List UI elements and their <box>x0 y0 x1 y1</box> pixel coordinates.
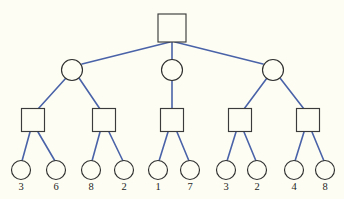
edge-n3-3-to-leaf-6 <box>177 132 189 161</box>
tree-svg: 3 6 8 2 1 7 3 2 4 8 <box>0 0 344 199</box>
edge-n3-2-to-leaf-4 <box>109 132 123 161</box>
leaf-label-6: 7 <box>187 181 192 192</box>
node-leaf-5[interactable] <box>149 161 168 180</box>
edge-n3-1-to-leaf-1 <box>22 132 30 161</box>
level-4-leaf-nodes <box>12 161 335 180</box>
leaf-label-10: 8 <box>322 181 327 192</box>
leaf-label-7: 3 <box>223 181 228 192</box>
edge-n3-5-to-leaf-10 <box>312 132 324 161</box>
edge-n2-3-to-n3-4 <box>244 78 267 109</box>
node-leaf-6[interactable] <box>181 161 200 180</box>
leaf-label-5: 1 <box>155 181 160 192</box>
node-n3-2[interactable] <box>93 109 116 132</box>
edges-level3-to-level4 <box>22 132 324 161</box>
edge-n2-3-to-n3-5 <box>280 78 304 109</box>
edge-n3-1-to-leaf-2 <box>38 132 55 161</box>
edge-n2-1-to-n3-1 <box>38 78 66 109</box>
leaf-label-3: 8 <box>88 181 93 192</box>
level-3-nodes <box>22 109 320 132</box>
edge-root-to-n2-1 <box>82 42 170 64</box>
leaf-label-9: 4 <box>291 181 297 192</box>
edge-n3-5-to-leaf-9 <box>295 132 304 161</box>
leaf-label-2: 6 <box>53 181 58 192</box>
node-leaf-8[interactable] <box>248 161 267 180</box>
node-leaf-7[interactable] <box>217 161 236 180</box>
node-leaf-2[interactable] <box>47 161 66 180</box>
node-n3-1[interactable] <box>22 109 45 132</box>
leaf-label-1: 3 <box>18 181 23 192</box>
leaf-label-8: 2 <box>254 181 259 192</box>
node-leaf-3[interactable] <box>82 161 101 180</box>
leaf-label-4: 2 <box>121 181 126 192</box>
level-1-nodes <box>158 14 186 42</box>
node-n3-4[interactable] <box>229 109 252 132</box>
node-leaf-1[interactable] <box>12 161 31 180</box>
tree-diagram: 3 6 8 2 1 7 3 2 4 8 <box>0 0 344 199</box>
node-leaf-10[interactable] <box>316 161 335 180</box>
edge-n3-2-to-leaf-3 <box>92 132 100 161</box>
node-leaf-9[interactable] <box>285 161 304 180</box>
edge-n3-4-to-leaf-7 <box>227 132 236 161</box>
level-2-nodes <box>62 60 284 81</box>
node-leaf-4[interactable] <box>115 161 134 180</box>
node-n2-3[interactable] <box>263 60 284 81</box>
node-n2-2[interactable] <box>162 60 183 81</box>
edge-root-to-n2-3 <box>175 42 263 64</box>
node-n3-3[interactable] <box>161 109 184 132</box>
node-n3-5[interactable] <box>297 109 320 132</box>
node-n2-1[interactable] <box>62 60 83 81</box>
node-root[interactable] <box>158 14 186 42</box>
edges-level2-to-level3 <box>38 78 304 109</box>
edge-n3-3-to-leaf-5 <box>159 132 168 161</box>
edge-n3-4-to-leaf-8 <box>244 132 256 161</box>
edge-n2-1-to-n3-2 <box>79 78 100 109</box>
leaf-labels: 3 6 8 2 1 7 3 2 4 8 <box>18 181 327 192</box>
